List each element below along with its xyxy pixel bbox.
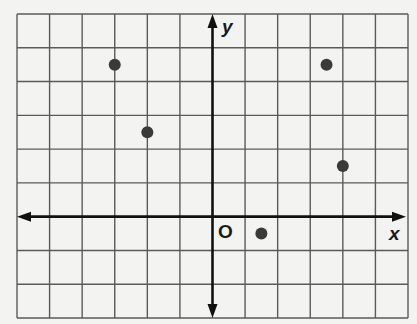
data-point bbox=[255, 228, 267, 240]
data-point bbox=[109, 59, 121, 71]
x-axis-label: x bbox=[389, 224, 400, 243]
y-axis-label: y bbox=[222, 17, 233, 36]
arrow-down-icon bbox=[208, 304, 218, 318]
arrow-left-icon bbox=[17, 212, 31, 222]
data-point bbox=[141, 126, 153, 138]
data-point bbox=[337, 160, 349, 172]
arrow-right-icon bbox=[392, 212, 406, 222]
data-point bbox=[321, 59, 333, 71]
arrow-up-icon bbox=[208, 14, 218, 28]
origin-label: O bbox=[218, 222, 233, 241]
coordinate-plane bbox=[0, 0, 417, 324]
